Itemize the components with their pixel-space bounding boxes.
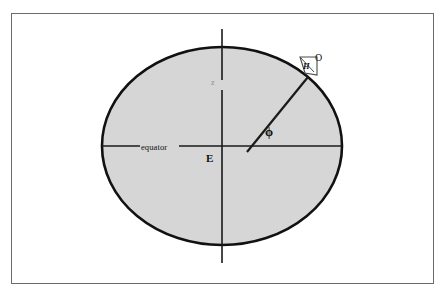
center-label-E: E — [206, 152, 213, 164]
diagram-canvas: equator E z O H ϕ — [0, 0, 447, 296]
angle-label-phi: ϕ — [265, 124, 273, 140]
angle-label-H: H — [303, 61, 310, 71]
diagram-vector-layer — [0, 0, 447, 296]
equator-label: equator — [141, 142, 167, 152]
point-label-O: O — [315, 52, 322, 63]
axis-label-z: z — [211, 78, 215, 87]
